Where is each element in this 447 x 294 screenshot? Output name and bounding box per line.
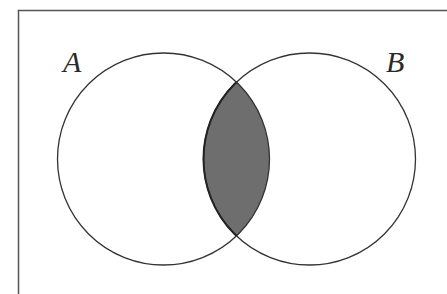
venn-diagram: A B bbox=[0, 0, 447, 294]
set-b-label: B bbox=[386, 45, 404, 78]
intersection-region bbox=[204, 53, 416, 265]
set-a-label: A bbox=[61, 45, 82, 78]
